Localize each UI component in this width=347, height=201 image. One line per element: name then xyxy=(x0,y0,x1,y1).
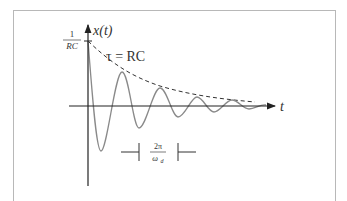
initial-value-numerator: 1 xyxy=(70,29,75,39)
period-denominator: ω xyxy=(152,154,158,163)
period-subscript: d xyxy=(161,158,165,164)
damped-oscillation-diagram: x(t) t 1 RC τ = RC 2π ω d xyxy=(0,0,347,201)
period-numerator: 2π xyxy=(154,142,162,151)
y-axis-label: x(t) xyxy=(92,23,113,39)
x-axis-label: t xyxy=(280,99,285,114)
envelope-label: τ = RC xyxy=(106,49,145,64)
initial-value-denominator: RC xyxy=(65,41,78,51)
